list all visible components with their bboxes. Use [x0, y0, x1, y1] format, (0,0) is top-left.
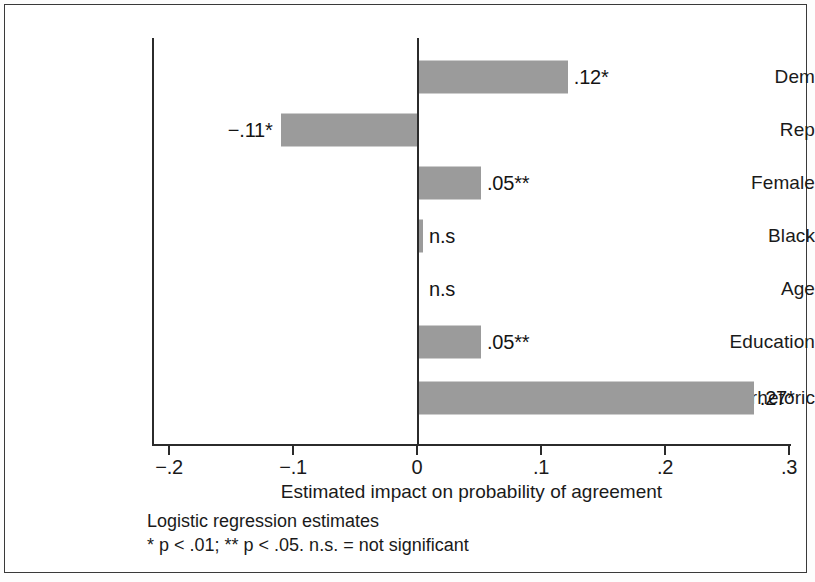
- footnote-line-2: * p < .01; ** p < .05. n.s. = not signif…: [147, 533, 469, 557]
- x-axis-tick: [416, 446, 418, 455]
- x-axis-tick-label: .1: [533, 456, 549, 479]
- x-axis-tick: [292, 446, 294, 455]
- chart-footnote: Logistic regression estimates * p < .01;…: [147, 509, 469, 557]
- x-axis-tick: [540, 446, 542, 455]
- category-label: Education: [670, 331, 815, 353]
- bar-value-label: .27*: [760, 387, 795, 410]
- x-axis-tick-label: 0: [412, 456, 423, 479]
- bar-value-label: .05**: [487, 331, 529, 354]
- x-axis-tick-label: −.1: [279, 456, 306, 479]
- footnote-line-1: Logistic regression estimates: [147, 509, 469, 533]
- figure-bar-chart: −.2−.10.1.2.3 DemRepFemaleBlackAgeEducat…: [0, 0, 815, 582]
- x-axis-title: Estimated impact on probability of agree…: [152, 481, 791, 503]
- bar: [419, 326, 481, 359]
- bar: [281, 114, 417, 147]
- bar-value-label: n.s: [429, 225, 455, 248]
- x-axis-tick: [788, 446, 790, 455]
- bar: [419, 61, 568, 94]
- x-axis-tick: [664, 446, 666, 455]
- bar: [419, 382, 754, 415]
- bar: [419, 167, 481, 200]
- y-axis-spine: [152, 38, 154, 446]
- bar: [419, 220, 423, 253]
- x-axis-tick-label: −.2: [155, 456, 182, 479]
- x-axis-tick-label: .2: [657, 456, 673, 479]
- bar-value-label: n.s: [429, 278, 455, 301]
- category-label: Female: [670, 172, 815, 194]
- category-label: Age: [670, 278, 815, 300]
- x-axis-tick-label: .3: [781, 456, 797, 479]
- x-axis-tick: [168, 446, 170, 455]
- bar-value-label: .12*: [574, 66, 609, 89]
- category-label: Dem: [670, 66, 815, 88]
- category-label: Black: [670, 225, 815, 247]
- bar-value-label: −.11*: [228, 119, 273, 142]
- category-label: Rep: [670, 119, 815, 141]
- x-axis-line: [152, 444, 791, 446]
- bar-value-label: .05**: [487, 172, 529, 195]
